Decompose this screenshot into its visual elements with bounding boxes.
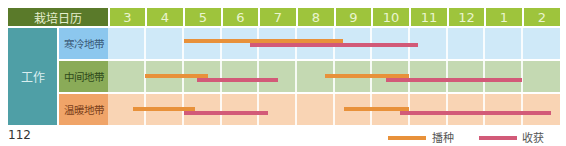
cultivation-calendar-table: 栽培日历 3 4 5 6 7 8 9 10 11 12 1 2 工作 寒冷地带 … [8, 8, 560, 125]
harvest-bar-warm-2 [400, 111, 551, 115]
legend-sow-label: 播种 [432, 129, 454, 145]
harvest-bar-middle-2 [386, 78, 522, 82]
month-header-9: 9 [334, 8, 371, 26]
page-number: 112 [8, 128, 31, 142]
row-group-label: 工作 [8, 28, 57, 125]
zone-label-cold: 寒冷地带 [59, 28, 108, 59]
zone-label-middle: 中间地带 [59, 61, 108, 92]
calendar-title: 栽培日历 [8, 8, 108, 26]
harvest-bar-warm-1 [184, 111, 268, 115]
month-header-8: 8 [296, 8, 334, 26]
zone-label-warm: 温暖地带 [59, 94, 108, 125]
month-header-11: 11 [409, 8, 447, 26]
harvest-bar-cold [250, 43, 418, 47]
month-header-7: 7 [258, 8, 296, 26]
legend-sow-swatch [388, 136, 426, 140]
month-header-6: 6 [221, 8, 258, 26]
month-header-2: 2 [522, 8, 560, 26]
legend-harvest-label: 收获 [522, 129, 544, 145]
month-header-5: 5 [183, 8, 221, 26]
month-header-1: 1 [484, 8, 522, 26]
harvest-bar-middle-1 [197, 78, 278, 82]
month-header-10: 10 [371, 8, 409, 26]
month-header-3: 3 [108, 8, 145, 26]
legend-harvest-swatch [479, 136, 517, 140]
month-header-12: 12 [447, 8, 484, 26]
month-header-4: 4 [145, 8, 183, 26]
